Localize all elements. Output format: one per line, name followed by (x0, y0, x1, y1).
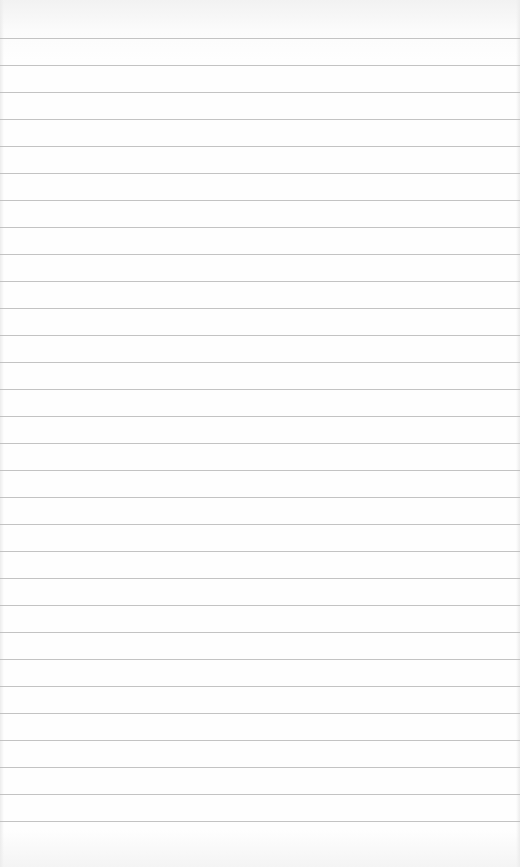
ruled-line (0, 578, 520, 579)
ruled-line (0, 308, 520, 309)
ruled-line (0, 254, 520, 255)
ruled-line (0, 443, 520, 444)
ruled-line (0, 389, 520, 390)
ruled-line (0, 605, 520, 606)
ruled-line (0, 38, 520, 39)
ruled-line (0, 119, 520, 120)
ruled-line (0, 200, 520, 201)
ruled-line (0, 524, 520, 525)
paper-edge-left (0, 0, 4, 867)
lined-paper-sheet (0, 0, 520, 867)
ruled-line (0, 281, 520, 282)
ruled-line (0, 173, 520, 174)
ruled-line (0, 686, 520, 687)
ruled-line (0, 767, 520, 768)
ruled-line (0, 65, 520, 66)
ruled-line (0, 470, 520, 471)
ruled-line (0, 551, 520, 552)
ruled-line (0, 362, 520, 363)
ruled-line (0, 713, 520, 714)
ruled-line (0, 416, 520, 417)
ruled-line (0, 821, 520, 822)
ruled-line (0, 497, 520, 498)
ruled-line (0, 740, 520, 741)
ruled-line (0, 335, 520, 336)
ruled-line (0, 659, 520, 660)
ruled-line (0, 92, 520, 93)
paper-edge-right (516, 0, 520, 867)
ruled-line (0, 227, 520, 228)
ruled-line (0, 146, 520, 147)
ruled-line (0, 632, 520, 633)
ruled-line (0, 794, 520, 795)
